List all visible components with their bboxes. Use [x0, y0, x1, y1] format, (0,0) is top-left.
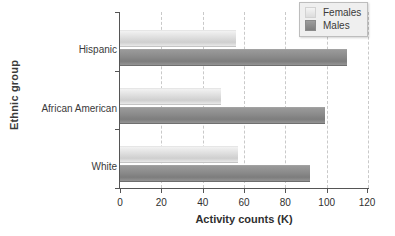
bar-white-males [120, 165, 310, 182]
bar-african-american-males [120, 107, 325, 124]
y-axis-tick-1 [115, 71, 120, 72]
x-tick-label-60: 60 [238, 197, 249, 208]
x-axis-tick-120 [367, 188, 368, 193]
y-axis-tick-2 [115, 129, 120, 130]
bar-hispanic-females [120, 30, 236, 47]
y-tick-label-hispanic: Hispanic [17, 44, 117, 55]
legend-swatch-males-icon [305, 20, 316, 31]
bar-african-american-females [120, 88, 221, 105]
legend-label-females: Females [323, 7, 361, 18]
x-tick-label-20: 20 [156, 197, 167, 208]
x-tick-label-120: 120 [359, 197, 376, 208]
legend-swatch-females-icon [305, 7, 316, 18]
x-axis-tick-80 [285, 188, 286, 193]
bar-hispanic-males [120, 49, 347, 66]
bar-white-females [120, 146, 238, 163]
gridline-100 [327, 12, 328, 188]
x-axis-tick-60 [244, 188, 245, 193]
x-tick-label-100: 100 [318, 197, 335, 208]
x-axis-title: Activity counts (K) [120, 213, 368, 225]
plot-area: 0 20 40 60 80 100 120 [120, 12, 368, 188]
x-tick-label-40: 40 [197, 197, 208, 208]
legend-item-females: Females [305, 6, 361, 19]
x-axis-tick-20 [161, 188, 162, 193]
x-axis-tick-0 [120, 188, 121, 193]
x-tick-label-0: 0 [117, 197, 123, 208]
gridline-120 [368, 12, 369, 188]
x-axis-tick-100 [327, 188, 328, 193]
legend-item-males: Males [305, 19, 361, 32]
legend: Females Males [299, 2, 368, 37]
x-axis-tick-40 [203, 188, 204, 193]
activity-counts-bar-chart: Ethnic group Hispanic African American W… [0, 0, 395, 236]
y-tick-label-white: White [17, 161, 117, 172]
y-axis-tick-top [115, 12, 120, 13]
gridline-60 [244, 12, 245, 188]
x-tick-label-80: 80 [280, 197, 291, 208]
legend-label-males: Males [323, 20, 350, 31]
y-axis-tick-labels: Hispanic African American White [14, 0, 117, 236]
y-tick-label-african-american: African American [17, 103, 117, 114]
gridline-80 [285, 12, 286, 188]
